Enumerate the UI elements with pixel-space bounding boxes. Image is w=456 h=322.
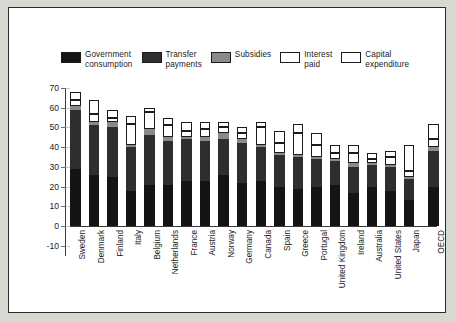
bar-portugal bbox=[311, 133, 322, 226]
segment-interest-paid bbox=[348, 153, 359, 163]
legend-swatch-interest-paid bbox=[280, 52, 300, 63]
legend-label-transfer-payments: Transfer payments bbox=[166, 50, 202, 70]
segment-transfer-payments bbox=[293, 157, 304, 189]
x-axis-label: Italy bbox=[134, 230, 143, 245]
segment-capital-expenditure bbox=[348, 145, 359, 153]
legend-label-subsidies: Subsidies bbox=[235, 50, 271, 60]
segment-government-consumption bbox=[181, 181, 192, 226]
segment-transfer-payments bbox=[89, 125, 100, 174]
segment-transfer-payments bbox=[237, 143, 248, 182]
segment-government-consumption bbox=[367, 187, 378, 226]
segment-government-consumption bbox=[256, 181, 267, 226]
legend-swatch-capital-expenditure bbox=[341, 52, 361, 63]
y-axis-tick-label: 20 bbox=[49, 182, 59, 192]
bar-italy bbox=[126, 116, 137, 226]
segment-capital-expenditure bbox=[126, 116, 137, 124]
bar-france bbox=[181, 122, 192, 226]
bar-australia bbox=[367, 153, 378, 226]
legend-item-subsidies: Subsidies bbox=[211, 50, 271, 63]
segment-government-consumption bbox=[428, 187, 439, 226]
bar-canada bbox=[256, 122, 267, 226]
segment-government-consumption bbox=[89, 175, 100, 226]
legend-label-government-consumption: Government consumption bbox=[85, 50, 133, 70]
bar-united-states bbox=[385, 151, 396, 226]
x-axis-label: Belgium bbox=[153, 230, 162, 260]
bar-japan bbox=[404, 145, 415, 226]
segment-capital-expenditure bbox=[311, 133, 322, 145]
y-axis-line bbox=[65, 88, 66, 256]
segment-government-consumption bbox=[144, 185, 155, 226]
segment-capital-expenditure bbox=[330, 145, 341, 153]
segment-capital-expenditure bbox=[428, 124, 439, 140]
legend-swatch-government-consumption bbox=[61, 52, 81, 63]
segment-transfer-payments bbox=[200, 141, 211, 180]
segment-interest-paid bbox=[274, 143, 285, 153]
segment-interest-paid bbox=[126, 124, 137, 146]
segment-government-consumption bbox=[200, 181, 211, 226]
bar-austria bbox=[200, 122, 211, 226]
segment-government-consumption bbox=[404, 200, 415, 226]
y-axis-tick-label: 0 bbox=[54, 221, 59, 231]
chart-plot-area: -10010203040506070 SwedenDenmarkFinlandI… bbox=[66, 88, 437, 226]
legend-swatch-subsidies bbox=[211, 52, 231, 63]
x-axis-label: Canada bbox=[264, 230, 273, 259]
segment-capital-expenditure bbox=[200, 122, 211, 130]
segment-transfer-payments bbox=[144, 135, 155, 184]
segment-transfer-payments bbox=[348, 167, 359, 193]
bar-finland bbox=[107, 110, 118, 226]
segment-interest-paid bbox=[89, 114, 100, 122]
x-axis-label: United Kingdom bbox=[338, 230, 347, 288]
segment-interest-paid bbox=[428, 139, 439, 147]
segment-capital-expenditure bbox=[181, 122, 192, 132]
y-axis-tick-label: 60 bbox=[49, 103, 59, 113]
legend-swatch-transfer-payments bbox=[142, 52, 162, 63]
segment-government-consumption bbox=[218, 175, 229, 226]
x-axis-label: Greece bbox=[301, 230, 310, 257]
bar-oecd bbox=[428, 124, 439, 226]
x-axis-label: Norway bbox=[227, 230, 236, 258]
segment-government-consumption bbox=[237, 183, 248, 226]
segment-transfer-payments bbox=[367, 165, 378, 187]
legend-item-capital-expenditure: Capital expenditure bbox=[341, 50, 409, 70]
segment-government-consumption bbox=[311, 187, 322, 226]
legend-label-interest-paid: Interest paid bbox=[304, 50, 332, 70]
segment-transfer-payments bbox=[126, 147, 137, 190]
bar-ireland bbox=[348, 145, 359, 226]
segment-transfer-payments bbox=[385, 167, 396, 191]
segment-government-consumption bbox=[348, 193, 359, 227]
segment-capital-expenditure bbox=[163, 118, 174, 126]
x-axis-line bbox=[65, 226, 437, 227]
bar-netherlands bbox=[163, 118, 174, 226]
y-axis-tick-label: 40 bbox=[49, 142, 59, 152]
segment-capital-expenditure bbox=[293, 124, 304, 134]
segment-interest-paid bbox=[256, 127, 267, 145]
segment-interest-paid bbox=[163, 125, 174, 137]
segment-government-consumption bbox=[330, 185, 341, 226]
bar-spain bbox=[274, 131, 285, 226]
segment-capital-expenditure bbox=[107, 110, 118, 118]
y-axis-tick-label: 70 bbox=[49, 83, 59, 93]
bar-belgium bbox=[144, 108, 155, 226]
legend-label-capital-expenditure: Capital expenditure bbox=[365, 50, 409, 70]
x-axis-label: France bbox=[190, 230, 199, 255]
bar-greece bbox=[293, 124, 304, 226]
segment-transfer-payments bbox=[218, 139, 229, 174]
x-axis-label: Portugal bbox=[320, 230, 329, 261]
segment-capital-expenditure bbox=[89, 100, 100, 114]
y-axis-gridline-stub bbox=[66, 246, 70, 247]
segment-transfer-payments bbox=[181, 139, 192, 180]
x-axis-label: Finland bbox=[116, 230, 125, 257]
bar-germany bbox=[237, 127, 248, 226]
segment-capital-expenditure bbox=[70, 92, 81, 100]
segment-government-consumption bbox=[126, 191, 137, 226]
y-axis-gridline-stub bbox=[66, 88, 70, 89]
x-axis-label: Japan bbox=[412, 230, 421, 252]
segment-interest-paid bbox=[311, 145, 322, 157]
segment-transfer-payments bbox=[428, 151, 439, 186]
segment-interest-paid bbox=[200, 129, 211, 137]
segment-government-consumption bbox=[385, 191, 396, 226]
segment-transfer-payments bbox=[107, 127, 118, 176]
x-axis-label: Sweden bbox=[78, 230, 87, 260]
segment-transfer-payments bbox=[330, 161, 341, 185]
segment-government-consumption bbox=[163, 185, 174, 226]
